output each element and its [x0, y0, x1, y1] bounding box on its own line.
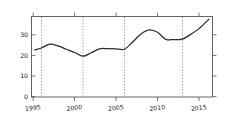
x-axis-labels: 1995 2000 2005 2010 2015: [25, 103, 207, 112]
line-chart: 0 10 20 30 1995 2000 2005 2010 2015: [0, 0, 231, 122]
annotation-lines: [42, 17, 183, 97]
x-axis-ticks-bottom: [33, 97, 199, 101]
y-axis-label-10: 10: [20, 72, 28, 79]
x-axis-label-2010: 2010: [149, 103, 166, 112]
x-axis-label-1995: 1995: [25, 103, 42, 112]
y-axis-label-30: 30: [20, 31, 28, 38]
y-axis-labels: 0 10 20 30: [20, 31, 28, 100]
y-axis-label-0: 0: [24, 93, 28, 100]
y-axis-ticks-left: [32, 35, 36, 97]
x-axis-label-2000: 2000: [66, 103, 83, 112]
x-axis-label-2005: 2005: [108, 103, 125, 112]
y-axis-ticks-right: [213, 35, 217, 97]
x-axis-label-2015: 2015: [190, 103, 207, 112]
plot-frame: [32, 17, 213, 98]
x-axis-ticks-top: [33, 13, 199, 17]
chart-canvas: 0 10 20 30 1995 2000 2005 2010 2015: [0, 0, 231, 122]
y-axis-label-20: 20: [20, 52, 28, 59]
